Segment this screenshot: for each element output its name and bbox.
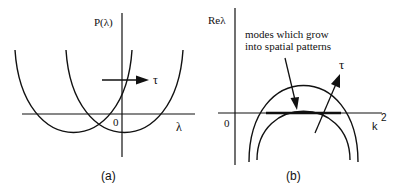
panel-b: τ Reλ modes which grow into spatial patt… [208,8,387,183]
panel-a-tau-arrow-head [136,76,149,85]
panel-b-tau-arrow-head [331,74,340,88]
panel-b-annotation-arrow-head [291,97,300,110]
panel-a-caption: (a) [101,169,116,183]
panel-b-annotation-line2: into spatial patterns [245,40,331,52]
panel-a: τ P(λ) 0 λ (a) [15,13,195,183]
figure: τ P(λ) 0 λ (a) τ Reλ modes which grow in… [0,0,398,189]
panel-a-y-label: P(λ) [94,16,113,29]
panel-b-origin-label: 0 [224,117,230,129]
panel-b-annotation-line1: modes which grow [245,28,329,40]
panel-b-y-label: Reλ [208,14,226,26]
panel-b-outer-arch [249,86,358,163]
panel-b-x-label-superscript: 2 [381,112,387,123]
panel-b-x-label: k [372,120,378,132]
panel-a-right-parabola [66,50,183,133]
panel-a-origin-label: 0 [113,116,119,128]
panel-b-tau-label: τ [339,57,344,72]
panel-a-x-label: λ [176,120,182,134]
panel-b-caption: (b) [286,169,301,183]
panel-b-annotation-arrow-shaft [285,58,295,100]
panel-b-inner-arch [257,111,350,160]
panel-a-tau-label: τ [153,73,158,87]
